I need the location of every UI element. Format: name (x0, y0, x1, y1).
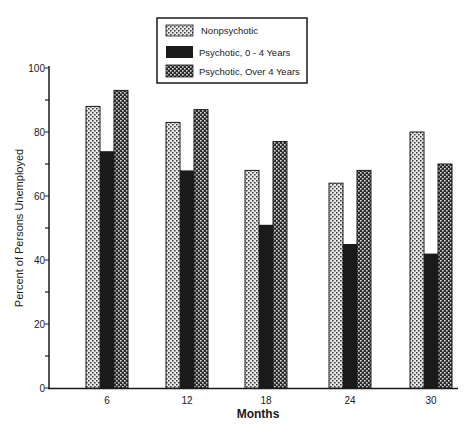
bar-nonpsychotic (166, 122, 180, 388)
legend-item-psychotic-0-4: Psychotic, 0 - 4 Years (166, 46, 291, 58)
legend-swatch-nonpsychotic (166, 25, 193, 36)
x-axis-tick-labels: 612182430 (104, 395, 437, 406)
x-axis-title: Months (237, 407, 280, 421)
bar-group-18 (245, 142, 287, 388)
bar-psychotic-over-4 (438, 164, 452, 388)
x-tick-label: 30 (425, 395, 437, 406)
bar-psychotic-0-4 (343, 244, 357, 388)
bar-psychotic-over-4 (194, 110, 208, 388)
legend-swatch-psychotic-over-4 (166, 65, 193, 77)
bar-group-12 (166, 110, 208, 388)
x-tick-label: 18 (260, 395, 272, 406)
legend-label: Psychotic, Over 4 Years (199, 66, 300, 77)
bar-group-30 (410, 132, 452, 388)
y-axis-title: Percent of Persons Unemployed (13, 149, 25, 307)
bar-chart: Nonpsychotic Psychotic, 0 - 4 Years Psyc… (0, 0, 476, 435)
y-tick-label: 40 (34, 255, 46, 266)
bar-group-24 (329, 170, 371, 388)
legend-swatch-psychotic-0-4 (166, 46, 193, 58)
bar-group-6 (86, 90, 128, 388)
bar-psychotic-0-4 (424, 254, 438, 388)
bar-nonpsychotic (329, 183, 343, 388)
y-tick-label: 100 (28, 63, 45, 74)
bar-psychotic-over-4 (273, 142, 287, 388)
bar-psychotic-0-4 (259, 225, 273, 388)
legend: Nonpsychotic Psychotic, 0 - 4 Years Psyc… (157, 18, 307, 83)
x-tick-label: 24 (344, 395, 356, 406)
legend-item-nonpsychotic: Nonpsychotic (166, 25, 258, 36)
legend-label: Nonpsychotic (201, 25, 258, 36)
y-tick-label: 60 (34, 191, 46, 202)
bar-psychotic-over-4 (357, 170, 371, 388)
x-tick-label: 12 (181, 395, 193, 406)
y-tick-label: 0 (39, 383, 45, 394)
legend-label: Psychotic, 0 - 4 Years (199, 47, 291, 58)
y-axis: 020406080100 (28, 63, 49, 394)
x-tick-label: 6 (104, 395, 110, 406)
y-tick-label: 20 (34, 319, 46, 330)
legend-item-psychotic-over-4: Psychotic, Over 4 Years (166, 65, 300, 77)
y-tick-label: 80 (34, 127, 46, 138)
bar-nonpsychotic (410, 132, 424, 388)
bars (86, 90, 452, 388)
bar-psychotic-over-4 (114, 90, 128, 388)
bar-nonpsychotic (86, 106, 100, 388)
bar-psychotic-0-4 (180, 170, 194, 388)
bar-psychotic-0-4 (100, 151, 114, 388)
bar-nonpsychotic (245, 170, 259, 388)
